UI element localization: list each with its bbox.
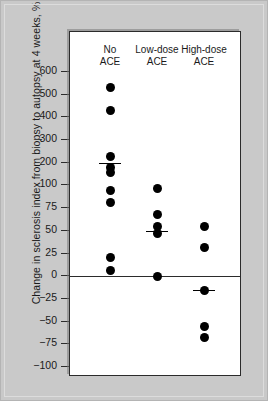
y-tick-label--25: −25 — [23, 291, 57, 303]
group-header-2: High-doseACE — [169, 44, 239, 67]
data-point — [153, 184, 162, 193]
y-tick-label-50: 50 — [23, 223, 57, 235]
data-point — [106, 253, 115, 262]
data-point — [200, 243, 209, 252]
y-tick-label-0: 0 — [23, 268, 57, 280]
plot-area: NoACELow-doseACEHigh-doseACE — [69, 31, 241, 376]
y-tick-400 — [61, 116, 69, 117]
group-header-line2: ACE — [169, 56, 239, 68]
y-tick-50 — [61, 230, 69, 231]
y-tick-label--50: −50 — [23, 314, 57, 326]
mean-bar — [193, 290, 215, 291]
y-tick-600 — [61, 71, 69, 72]
y-tick-label-100: 100 — [23, 177, 57, 189]
mean-bar — [99, 163, 121, 164]
y-tick-100 — [61, 184, 69, 185]
y-tick-500 — [61, 94, 69, 95]
y-tick--25 — [61, 298, 69, 299]
y-tick-label-400: 400 — [23, 109, 57, 121]
data-point — [153, 210, 162, 219]
y-tick-300 — [61, 139, 69, 140]
data-point — [200, 333, 209, 342]
y-tick-label-300: 300 — [23, 132, 57, 144]
y-tick-label--100: −100 — [23, 359, 57, 371]
data-point — [106, 152, 115, 161]
data-point — [153, 272, 162, 281]
mean-bar — [146, 231, 168, 232]
data-point — [200, 322, 209, 331]
y-tick-75 — [61, 207, 69, 208]
y-tick-label-500: 500 — [23, 87, 57, 99]
data-point — [200, 222, 209, 231]
y-tick-label-25: 25 — [23, 246, 57, 258]
data-point — [106, 198, 115, 207]
y-tick--75 — [61, 343, 69, 344]
figure-container: Change in sclerosis index from biopsy to… — [0, 0, 268, 401]
data-point — [106, 83, 115, 92]
data-point — [106, 266, 115, 275]
group-header-line1: High-dose — [169, 44, 239, 56]
data-point — [106, 168, 115, 177]
y-tick--100 — [61, 366, 69, 367]
y-tick-25 — [61, 253, 69, 254]
y-tick-0 — [61, 275, 69, 276]
y-tick--50 — [61, 321, 69, 322]
y-tick-label--75: −75 — [23, 336, 57, 348]
y-tick-200 — [61, 162, 69, 163]
y-tick-label-75: 75 — [23, 200, 57, 212]
data-point — [106, 186, 115, 195]
y-tick-label-600: 600 — [23, 64, 57, 76]
data-point — [106, 106, 115, 115]
y-tick-label-200: 200 — [23, 155, 57, 167]
